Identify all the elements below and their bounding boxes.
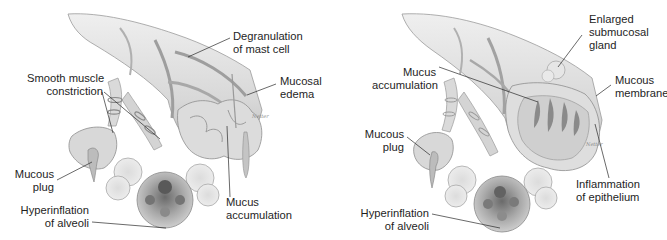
- illustration-artwork: Netter: [0, 0, 667, 240]
- label-mucous-membrane: Mucous membrane: [615, 74, 667, 100]
- right-alveoli: [445, 166, 557, 232]
- label-mucosal-edema: Mucosal edema: [280, 75, 322, 101]
- label-hyperinflation-of-alveoli-left: Hyperinflation of alveoli: [14, 204, 89, 230]
- svg-text:Netter: Netter: [251, 113, 269, 119]
- asthma-airway-diagram: Netter: [0, 0, 667, 240]
- label-hyperinflation-of-alveoli-right: Hyperinflation of alveoli: [352, 207, 429, 233]
- label-mucous-plug-left: Mucous plug: [10, 168, 54, 194]
- leader-enlarged-gland: [558, 35, 582, 67]
- leader-mucous-membrane: [596, 85, 611, 96]
- leader-mucous-plug-left: [57, 162, 92, 180]
- label-enlarged-submucosal-gland: Enlarged submucosal gland: [589, 13, 649, 52]
- label-smooth-muscle-constriction: Smooth muscle constriction: [27, 72, 103, 98]
- label-mucous-plug-right: Mucous plug: [360, 128, 404, 154]
- label-degranulation-of-mast-cell: Degranulation of mast cell: [233, 30, 303, 56]
- label-mucus-accumulation-right: Mucus accumulation: [372, 66, 436, 92]
- leader-inflammation: [595, 124, 609, 178]
- left-alveoli: [106, 158, 219, 228]
- label-mucus-accumulation-left: Mucus accumulation: [226, 196, 292, 222]
- label-inflammation-of-epithelium: Inflammation of epithelium: [576, 178, 640, 204]
